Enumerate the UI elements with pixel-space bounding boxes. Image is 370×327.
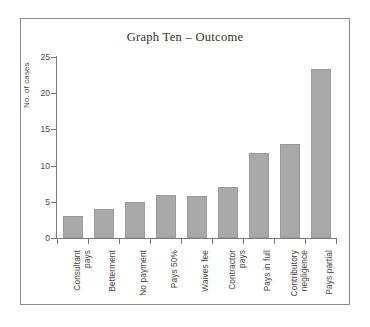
x-axis-tick-label: Consultant pays: [73, 250, 92, 302]
bar: [94, 209, 114, 238]
x-axis-tick: [88, 238, 89, 244]
y-axis-tick-labels: 0510152025: [12, 0, 50, 327]
bar: [187, 196, 207, 238]
x-axis-tick: [243, 238, 244, 244]
x-axis-tick: [57, 238, 58, 244]
x-axis-tick: [274, 238, 275, 244]
y-axis-tick-label: 0: [16, 233, 50, 243]
x-axis-tick-label: Contractor pays: [228, 250, 247, 302]
bar: [249, 153, 269, 238]
x-axis-tick: [181, 238, 182, 244]
chart-page: Graph Ten – Outcome No. of cases 0510152…: [0, 0, 370, 327]
bar: [125, 202, 145, 238]
x-axis-tick-label: Betterment: [108, 250, 118, 302]
bar: [311, 69, 331, 238]
y-axis-tick-label: 15: [16, 124, 50, 134]
x-axis-tick-label: Contributory negligence: [290, 250, 309, 302]
plot-area: [57, 57, 336, 238]
x-axis-tick-label: Pays in full: [263, 250, 273, 302]
bar: [63, 216, 83, 238]
y-axis-tick-label: 10: [16, 161, 50, 171]
x-axis-tick: [305, 238, 306, 244]
bar: [156, 195, 176, 238]
x-axis-line: [56, 238, 337, 239]
bar: [218, 187, 238, 238]
y-axis-tick-label: 20: [16, 88, 50, 98]
chart-title: Graph Ten – Outcome: [0, 30, 370, 45]
x-axis-tick: [150, 238, 151, 244]
x-axis-tick-label: Pays 50%: [170, 250, 180, 302]
x-axis-tick-label: No payment: [139, 250, 149, 302]
x-axis-tick-label: Waives fee: [201, 250, 211, 302]
bar: [280, 144, 300, 238]
y-axis-tick-label: 5: [16, 197, 50, 207]
x-axis-tick-label: Pays partial: [325, 250, 335, 302]
x-axis-tick: [336, 238, 337, 244]
x-axis-tick: [212, 238, 213, 244]
x-axis-tick: [119, 238, 120, 244]
y-axis-tick-label: 25: [16, 52, 50, 62]
